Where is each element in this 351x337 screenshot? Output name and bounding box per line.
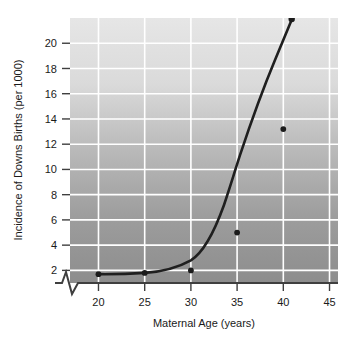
data-point	[96, 271, 102, 277]
y-tick-label: 12	[45, 138, 57, 150]
data-point	[188, 267, 194, 273]
x-axis-title: Maternal Age (years)	[153, 317, 255, 329]
y-tick-label: 16	[45, 88, 57, 100]
data-point	[142, 270, 148, 276]
x-tick-label: 30	[185, 296, 197, 308]
y-tick-label: 2	[51, 264, 57, 276]
y-axis-title: Incidence of Downs Births (per 1000)	[12, 60, 24, 241]
x-tick-label: 40	[277, 296, 289, 308]
y-tick-label: 10	[45, 163, 57, 175]
y-tick-label: 4	[51, 239, 57, 251]
x-tick-label: 45	[323, 296, 335, 308]
y-tick-label: 14	[45, 113, 57, 125]
x-tick-label: 20	[92, 296, 104, 308]
y-tick-label: 20	[45, 37, 57, 49]
plot-background	[70, 18, 338, 283]
chart-svg: 20 25 30 35 40 45 Maternal Age (years)	[0, 0, 351, 337]
data-point	[234, 230, 240, 236]
data-point	[280, 126, 286, 132]
x-tick-label: 35	[231, 296, 243, 308]
y-tick-label: 6	[51, 214, 57, 226]
plot-area	[70, 16, 338, 283]
x-tick-label: 25	[139, 296, 151, 308]
y-tick-label: 8	[51, 189, 57, 201]
downs-incidence-chart-figure: 20 25 30 35 40 45 Maternal Age (years)	[0, 0, 351, 337]
y-tick-label: 18	[45, 63, 57, 75]
